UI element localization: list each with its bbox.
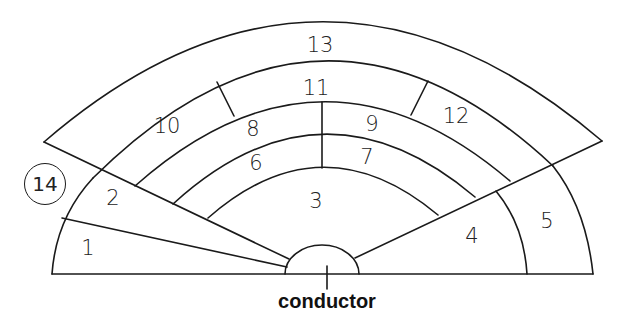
section-3-label: 3 xyxy=(309,191,322,212)
section-12-label: 12 xyxy=(443,106,470,127)
divider-10-11 xyxy=(217,82,234,116)
section-7-label: 7 xyxy=(360,147,373,168)
section-14-label: 14 xyxy=(32,172,57,196)
conductor-label: conductor xyxy=(278,290,376,313)
section-1-label: 1 xyxy=(81,238,94,259)
section-5-label: 5 xyxy=(540,211,553,232)
conductor-podium xyxy=(285,245,359,274)
section-8-label: 8 xyxy=(246,119,259,140)
arc-6-7 xyxy=(173,134,475,204)
orchestra-seating-diagram: 1 2 3 4 5 6 7 8 9 10 11 12 13 14 conduct… xyxy=(0,0,621,326)
section-11-label: 11 xyxy=(303,78,330,99)
section-4-label: 4 xyxy=(465,226,478,247)
arc-3 xyxy=(208,167,438,218)
section-6-label: 6 xyxy=(249,153,262,174)
section-9-label: 9 xyxy=(365,114,378,135)
section-13-label: 13 xyxy=(307,35,334,56)
arc-4-5 xyxy=(496,191,527,274)
section-14-badge: 14 xyxy=(24,163,66,205)
arc-outer-right xyxy=(553,166,593,274)
section-2-label: 2 xyxy=(106,188,119,209)
section-10-label: 10 xyxy=(154,116,181,137)
divider-11-12 xyxy=(411,81,428,115)
